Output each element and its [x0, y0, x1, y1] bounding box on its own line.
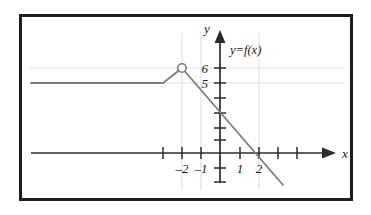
- function-graph: y x y=f(x) 6 5 –2 –1 1 2: [0, 0, 371, 215]
- y-tick-label-5: 5: [202, 76, 209, 91]
- y-axis-label: y: [202, 21, 210, 36]
- curve-equation-label: y=f(x): [228, 43, 261, 57]
- x-tick-label-2: 2: [256, 161, 263, 176]
- y-tick-label-6: 6: [202, 61, 209, 76]
- figure-container: y x y=f(x) 6 5 –2 –1 1 2: [0, 0, 371, 215]
- x-axis-label: x: [341, 146, 348, 161]
- open-circle-point: [178, 64, 186, 72]
- x-tick-label-1: 1: [237, 161, 244, 176]
- x-tick-label-neg1: –1: [194, 161, 208, 176]
- x-tick-label-neg2: –2: [175, 161, 190, 176]
